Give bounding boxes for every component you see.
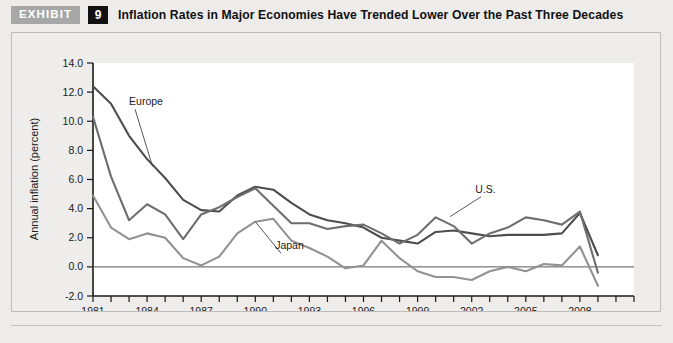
exhibit-title: Inflation Rates in Major Economies Have … <box>118 8 623 22</box>
y-tick-label: 14.0 <box>63 57 84 69</box>
exhibit-number-badge: 9 <box>88 6 108 24</box>
y-tick-label: 8.0 <box>68 144 83 156</box>
y-tick-label: -2.0 <box>65 290 83 302</box>
series-label-us: U.S. <box>475 183 495 195</box>
x-tick-group <box>93 296 634 302</box>
series-label-europe: Europe <box>129 95 163 107</box>
y-tick-label: 0.0 <box>68 260 83 272</box>
exhibit-header: EXHIBIT 9 Inflation Rates in Major Econo… <box>0 0 673 30</box>
y-tick-label: 6.0 <box>68 173 83 185</box>
x-tick-label: 1984 <box>135 305 159 311</box>
y-tick-label: 4.0 <box>68 202 83 214</box>
y-tick-label-group: 14.012.010.08.06.04.02.00.0-2.0 <box>63 57 84 302</box>
x-tick-label: 1981 <box>81 305 105 311</box>
plot-area-background <box>93 63 634 296</box>
y-tick-label: 2.0 <box>68 231 83 243</box>
x-tick-label: 2008 <box>568 305 592 311</box>
x-tick-label: 1987 <box>190 305 214 311</box>
x-tick-label: 1993 <box>298 305 322 311</box>
inflation-line-chart: 14.012.010.08.06.04.02.00.0-2.0 19811984… <box>12 33 660 311</box>
y-tick-label: 12.0 <box>63 86 84 98</box>
x-tick-label-group: 1981198419871990199319961999200220052008 <box>81 305 591 311</box>
y-axis-title: Annual inflation (percent) <box>28 118 40 240</box>
y-tick-group <box>87 63 93 296</box>
chart-panel: 14.012.010.08.06.04.02.00.0-2.0 19811984… <box>11 32 661 312</box>
x-tick-label: 2005 <box>514 305 538 311</box>
bottom-divider <box>11 325 662 326</box>
series-label-japan: Japan <box>275 239 304 251</box>
exhibit-badge: EXHIBIT <box>11 6 80 25</box>
x-tick-label: 2002 <box>460 305 484 311</box>
x-tick-label: 1999 <box>406 305 430 311</box>
x-tick-label: 1990 <box>244 305 268 311</box>
exhibit-root: EXHIBIT 9 Inflation Rates in Major Econo… <box>0 0 673 343</box>
x-tick-label: 1996 <box>352 305 376 311</box>
y-tick-label: 10.0 <box>63 115 84 127</box>
